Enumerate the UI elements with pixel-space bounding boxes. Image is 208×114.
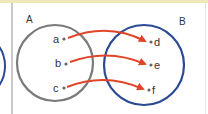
partial-circle-left: [0, 31, 5, 101]
element-b-label: b: [55, 57, 61, 69]
element-a-label: a: [53, 33, 60, 45]
arrow-a-to-d: [68, 31, 145, 41]
set-b-label: B: [179, 16, 186, 27]
element-a-dot: [62, 37, 65, 40]
arrow-b-to-e: [70, 55, 145, 64]
element-b-dot: [64, 62, 67, 65]
element-d-label: d: [154, 36, 160, 48]
element-e-dot: [149, 63, 152, 66]
mapping-diagram: A B a b c d e f: [0, 0, 208, 114]
element-d-dot: [149, 40, 152, 43]
element-f-dot: [147, 88, 150, 91]
set-a-label: A: [26, 14, 33, 25]
element-e-label: e: [154, 59, 160, 71]
set-b-circle: [104, 25, 184, 105]
element-c-dot: [62, 86, 65, 89]
element-c-label: c: [53, 82, 59, 94]
element-f-label: f: [152, 84, 156, 96]
arrow-c-to-f: [67, 80, 143, 89]
